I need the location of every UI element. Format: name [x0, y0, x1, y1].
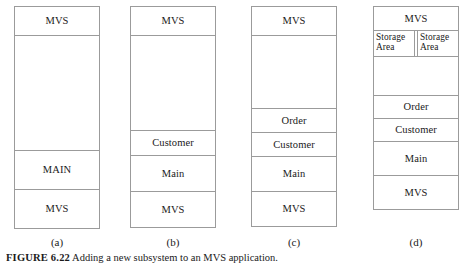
subcaption-a: (a) — [14, 236, 100, 248]
subcaption-d: (d) — [373, 236, 459, 248]
memory-block-free-space — [251, 35, 337, 109]
memory-block-main: Main — [373, 141, 459, 176]
memory-block-mvs-top: MVS — [14, 6, 100, 36]
memory-block-free-space — [130, 35, 216, 131]
memory-block-main: Main — [251, 156, 337, 192]
panel-row: MVS MAIN MVS MVS Customer Main MVS MVS O… — [0, 0, 475, 232]
storage-area-right-line2: Area — [420, 42, 439, 52]
memory-block-customer: Customer — [251, 132, 337, 157]
memory-block-mvs-top: MVS — [251, 6, 337, 36]
memory-block-mvs-top: MVS — [373, 6, 459, 31]
memory-diagram-a: MVS MAIN MVS — [14, 6, 100, 232]
memory-block-mvs-top: MVS — [130, 6, 216, 36]
memory-block-customer: Customer — [130, 130, 216, 156]
memory-block-storage-area-right: Storage Area — [417, 30, 459, 57]
memory-block-free-space — [373, 56, 459, 96]
memory-block-main: Main — [130, 155, 216, 192]
memory-block-customer: Customer — [373, 118, 459, 142]
memory-block-storage-area-left: Storage Area — [373, 30, 415, 57]
memory-block-mvs-bottom: MVS — [14, 189, 100, 229]
figure-caption-text: Adding a new subsystem to an MVS applica… — [72, 252, 278, 263]
storage-area-right-line1: Storage — [420, 32, 449, 42]
memory-block-order: Order — [251, 108, 337, 133]
memory-block-mvs-bottom: MVS — [373, 175, 459, 210]
memory-diagram-c: MVS Order Customer Main MVS — [251, 6, 337, 232]
storage-area-left-line2: Area — [376, 42, 395, 52]
subcaption-b: (b) — [130, 236, 216, 248]
subcaption-c: (c) — [251, 236, 337, 248]
memory-block-mvs-bottom: MVS — [251, 191, 337, 227]
storage-area-left-line1: Storage — [376, 32, 405, 42]
figure-caption-label: FIGURE 6.22 — [6, 252, 70, 263]
memory-block-order: Order — [373, 95, 459, 119]
storage-area-row: Storage Area Storage Area — [373, 30, 459, 57]
memory-block-free-space — [14, 35, 100, 151]
figure-caption: FIGURE 6.22 Adding a new subsystem to an… — [6, 252, 471, 264]
memory-block-main: MAIN — [14, 150, 100, 190]
memory-diagram-b: MVS Customer Main MVS — [130, 6, 216, 232]
memory-block-mvs-bottom: MVS — [130, 191, 216, 228]
memory-diagram-d: MVS Storage Area Storage Area Order C — [373, 6, 459, 232]
